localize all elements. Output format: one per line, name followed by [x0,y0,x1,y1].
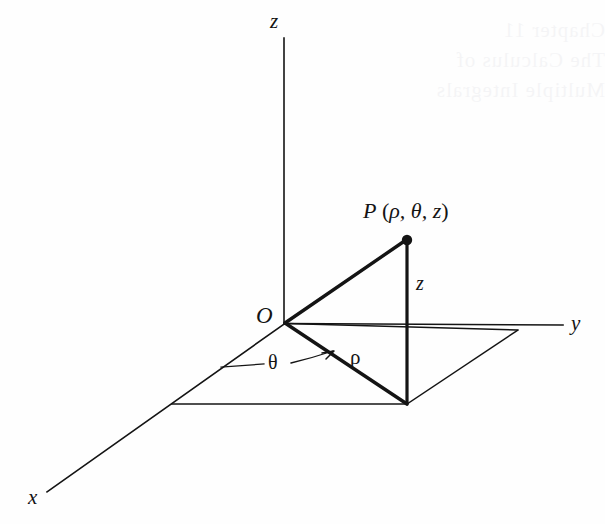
cylindrical-coordinates-drawing [0,0,605,524]
point-p-paren-close: ) [441,198,448,223]
x-axis-line [47,323,286,492]
angle-theta-label: θ [268,351,278,374]
figure-canvas: Chapter 11 The Calculus of Multiple Inte… [0,0,605,524]
radius-rho-label: ρ [350,345,360,370]
origin-label: O [256,303,273,329]
radius-rho-line [285,323,407,404]
point-p-dot [402,235,412,245]
ray-o-to-p-line [285,240,406,323]
y-axis-label: y [571,311,580,336]
point-p-theta: θ, [411,198,427,223]
point-p-label: P (ρ, θ, z) [363,198,449,224]
height-z-label: z [416,272,424,295]
x-axis-label: x [28,485,37,510]
z-axis-label: z [270,9,278,34]
point-p-rho: ρ, [389,198,405,223]
point-p-z: z [433,198,442,223]
base-right-edge-line [407,330,518,404]
point-p-letter: P [363,198,376,223]
